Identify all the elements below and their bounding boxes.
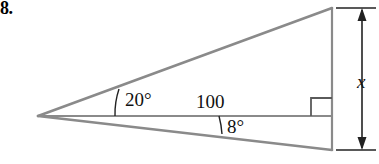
geometry-figure: 8. 20° 100 8° x [0, 0, 379, 164]
right-angle-marker-icon [311, 98, 332, 116]
base-length-label-100: 100 [196, 91, 225, 112]
angle-label-20: 20° [125, 89, 152, 110]
angle-label-8: 8° [227, 116, 244, 137]
upper-triangle-side [38, 8, 332, 116]
arrow-head-down-icon [358, 137, 367, 150]
lower-triangle-side [38, 116, 332, 150]
angle-arc-20-icon [115, 89, 119, 116]
arrow-head-up-icon [358, 8, 367, 21]
dimension-label-x: x [356, 71, 366, 92]
angle-arc-8-icon [219, 116, 222, 134]
triangle-diagram-svg: 20° 100 8° x [0, 0, 379, 164]
